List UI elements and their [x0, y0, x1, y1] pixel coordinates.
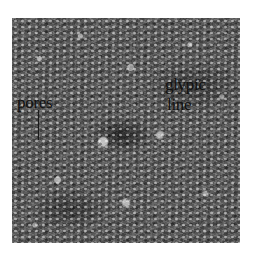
- glypic-label-line1: glypic: [165, 76, 206, 93]
- pores-pointer-line: [38, 110, 39, 140]
- glypic-label-line2: line: [167, 96, 191, 113]
- pores-label: pores: [17, 94, 52, 111]
- surface-speckle: [12, 18, 240, 243]
- micrograph-image: [12, 18, 240, 243]
